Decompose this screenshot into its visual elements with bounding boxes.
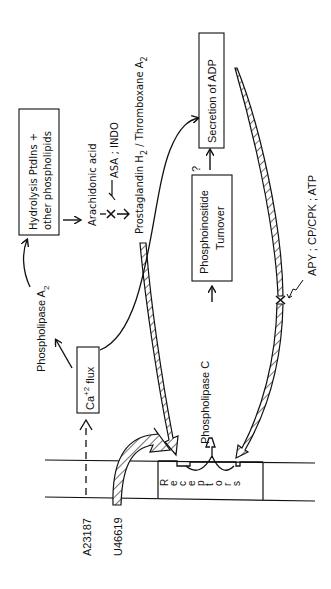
receptors-letters: e c e p t o r s [168,480,242,486]
adp-inhibitor-zigzag [289,280,303,298]
u46619-label: U46619 [112,517,124,556]
adp-inhibitors-label: APY ; CP/CPK ; ATP [306,175,318,276]
a23187-arrow [80,420,92,495]
phospholipase-c-label: Phospholipase C [199,361,211,444]
a23187-label: A23187 [81,518,93,556]
asa-indo-label: ASA ; INDO [109,122,120,178]
ca-to-pla2-arrow [56,340,72,368]
svg-text:Secretion of ADP: Secretion of ADP [206,59,218,143]
svg-text:Turnover: Turnover [214,206,226,250]
arachidonic-acid-label: Arachidonic acid [87,143,98,226]
svg-text:Prostaglandin H2 / Thromboxane: Prostaglandin H2 / Thromboxane A2 [134,56,149,234]
svg-text:s: s [231,481,242,486]
secretion-adp-label: Secretion of ADP [206,59,218,143]
pla2-to-hydrolysis-arrow [24,240,30,287]
svg-text:Hydrolysis PtdIns +: Hydrolysis PtdIns + [28,133,39,230]
adp-block-x [276,296,285,304]
svg-text:other phospholipids: other phospholipids [42,131,53,230]
prostaglandin-thromboxane-label: Prostaglandin H2 / Thromboxane A2 [134,56,149,234]
hydrolysis-box [19,109,59,235]
cox-inhibitor-arrow [109,180,115,200]
question-mark: ? [190,166,202,172]
phospholipase-a2-label: Phospholipase A2 [35,285,51,372]
adp-to-receptor-arrow-lower [236,304,283,458]
svg-text:Phosphoinositide: Phosphoinositide [198,190,210,274]
u46619-arrow [113,428,170,505]
cox-block-x [100,209,129,219]
thromboxane-to-receptor-arrow [140,243,178,455]
svg-text:Phospholipase A2: Phospholipase A2 [35,285,51,372]
adp-to-receptor-arrow-upper [235,68,283,296]
platelet-signaling-diagram: R e c e p t o r s A23187 U46619 Ca+2 flu… [0,0,331,589]
